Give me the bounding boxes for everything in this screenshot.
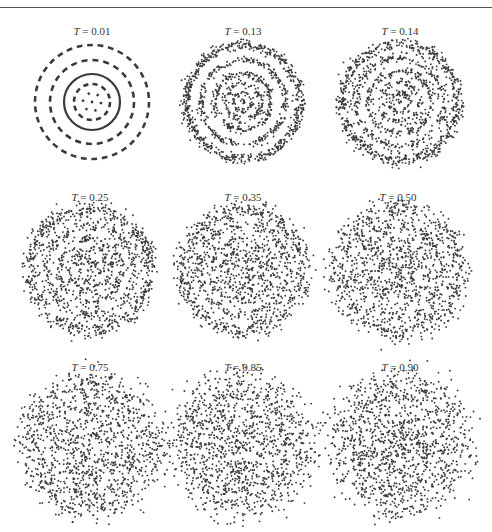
panel-t-0-13: T = 0.13 xyxy=(168,27,318,177)
panel-t-0-90: T = 0.90 xyxy=(325,370,475,520)
scatter-plot xyxy=(17,27,167,177)
scatter-plot xyxy=(168,370,318,520)
scatter-plot xyxy=(323,195,473,345)
panel-t-0-35: T = 0.35 xyxy=(168,195,318,345)
scatter-plot xyxy=(325,27,475,177)
panel-t-0-25: T = 0.25 xyxy=(15,195,165,345)
scatter-plot xyxy=(15,370,165,520)
scatter-plot xyxy=(168,27,318,177)
panel-t-0-75: T = 0.75 xyxy=(15,370,165,520)
panel-t-0-01: T = 0.01 xyxy=(17,27,167,177)
panel-t-0-85: T = 0.85 xyxy=(168,370,318,520)
scatter-plot xyxy=(168,195,318,345)
scatter-plot xyxy=(15,195,165,345)
temperature-ring-figure: T = 0.01 T = 0.13 T = 0.14 T = 0.25 T = … xyxy=(0,0,492,532)
panel-t-0-50: T = 0.50 xyxy=(323,195,473,345)
scatter-plot xyxy=(325,370,475,520)
panel-t-0-14: T = 0.14 xyxy=(325,27,475,177)
